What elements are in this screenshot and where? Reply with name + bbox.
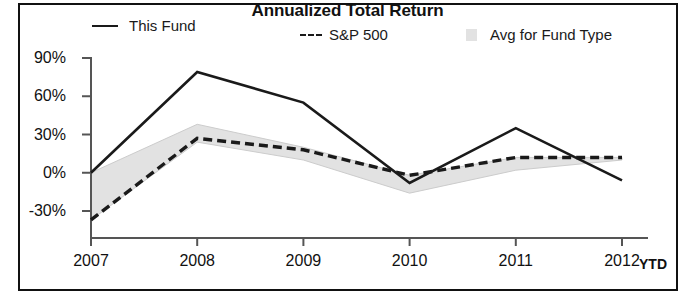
- x-tick-label: 2008: [179, 252, 215, 270]
- x-tick-label: 2009: [286, 252, 322, 270]
- y-tick-label: 30%: [34, 126, 66, 144]
- x-tick-label: 2007: [73, 252, 109, 270]
- y-tick-label: 0%: [43, 164, 66, 182]
- y-tick-label: 90%: [34, 49, 66, 67]
- y-tick-label: -30%: [29, 202, 66, 220]
- x-tick-label: 2012: [604, 252, 640, 270]
- x-tick-label: 2011: [499, 252, 533, 270]
- avg-fund-type-band: [91, 124, 622, 220]
- y-tick-label: 60%: [34, 87, 66, 105]
- annualized-total-return-chart: Annualized Total Return This Fund S&P 50…: [0, 0, 695, 299]
- x-tick-label: 2010: [392, 252, 428, 270]
- x-axis-ytd-label: YTD: [639, 256, 667, 272]
